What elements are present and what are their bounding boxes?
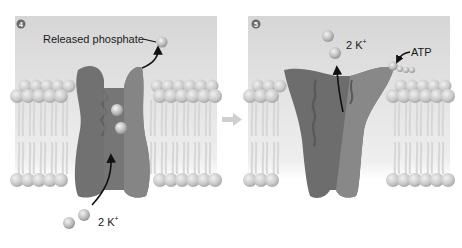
- lipid-head: [265, 173, 279, 187]
- phosphate-ball: [157, 37, 168, 48]
- lipid-head: [54, 173, 68, 187]
- k-ion-bound: [111, 104, 123, 116]
- lipid-head: [441, 89, 455, 103]
- k-ion: [63, 217, 75, 229]
- step-number: 4: [19, 21, 23, 28]
- k-ion-bound: [115, 122, 127, 134]
- panel-step-5: 2 K+ ATP 5: [243, 16, 455, 216]
- atp-label: ATP: [411, 46, 432, 58]
- k-ion: [322, 30, 334, 42]
- lipid-head: [441, 173, 455, 187]
- k-ion-label: 2 K+: [98, 215, 119, 228]
- lipid-head: [265, 89, 279, 103]
- lipid-head: [208, 173, 222, 187]
- k-ion: [78, 209, 90, 221]
- diagram-canvas: Released phosphate 2 K+ 4 2 K+: [0, 0, 462, 248]
- k-ion: [329, 47, 341, 59]
- step-number: 5: [254, 21, 258, 28]
- lipid-head: [208, 89, 222, 103]
- next-step-arrow: [222, 113, 242, 126]
- released-phosphate-label: Released phosphate: [43, 33, 144, 45]
- lipid-head: [54, 89, 68, 103]
- panel-step-4: Released phosphate 2 K+ 4: [10, 16, 222, 229]
